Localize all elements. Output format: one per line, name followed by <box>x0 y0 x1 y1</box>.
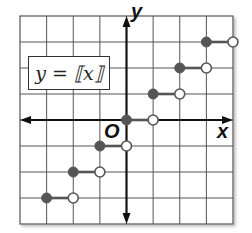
open-endpoint-circle <box>95 167 105 177</box>
x-axis-label: x <box>217 120 228 143</box>
closed-endpoint-dot <box>68 167 78 177</box>
open-endpoint-circle <box>148 115 158 125</box>
closed-endpoint-dot <box>175 63 185 73</box>
step-function-graph <box>0 0 252 233</box>
function-label: y = ⟦x⟧ <box>35 62 102 84</box>
y-axis-label: y <box>131 0 142 23</box>
closed-endpoint-dot <box>148 89 158 99</box>
open-endpoint-circle <box>175 89 185 99</box>
closed-endpoint-dot <box>201 37 211 47</box>
open-endpoint-circle <box>68 193 78 203</box>
function-label-box: y = ⟦x⟧ <box>28 56 110 90</box>
closed-endpoint-dot <box>122 115 132 125</box>
open-endpoint-circle <box>201 63 211 73</box>
open-endpoint-circle <box>228 37 238 47</box>
open-endpoint-circle <box>122 141 132 151</box>
origin-label: O <box>104 120 120 143</box>
closed-endpoint-dot <box>42 193 52 203</box>
